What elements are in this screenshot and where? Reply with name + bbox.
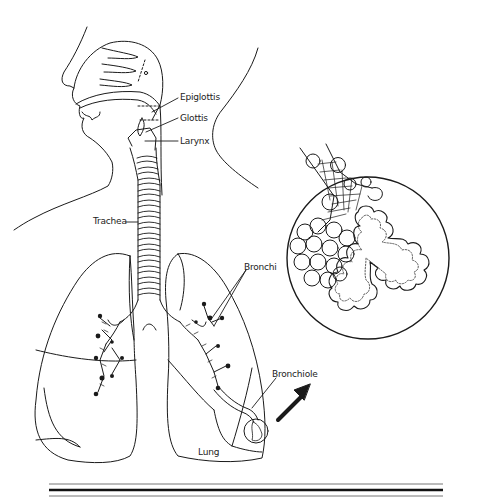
label-lung: Lung bbox=[198, 447, 219, 457]
label-bronchiole: Bronchiole bbox=[272, 369, 318, 379]
alveolar-sacs-cluster bbox=[290, 218, 355, 288]
label-larynx: Larynx bbox=[180, 136, 209, 146]
alveolar-sac-section bbox=[329, 206, 429, 310]
alveoli-inset bbox=[287, 144, 449, 339]
label-glottis: Glottis bbox=[180, 113, 208, 123]
arrow-up-right-icon bbox=[278, 384, 310, 420]
label-bronchi: Bronchi bbox=[244, 262, 277, 272]
label-epiglottis: Epiglottis bbox=[180, 92, 220, 102]
left-lung bbox=[166, 253, 266, 461]
label-trachea: Trachea bbox=[93, 216, 127, 226]
bottom-rules bbox=[49, 484, 443, 496]
respiratory-illustration bbox=[0, 0, 493, 499]
head-outline bbox=[14, 27, 258, 230]
